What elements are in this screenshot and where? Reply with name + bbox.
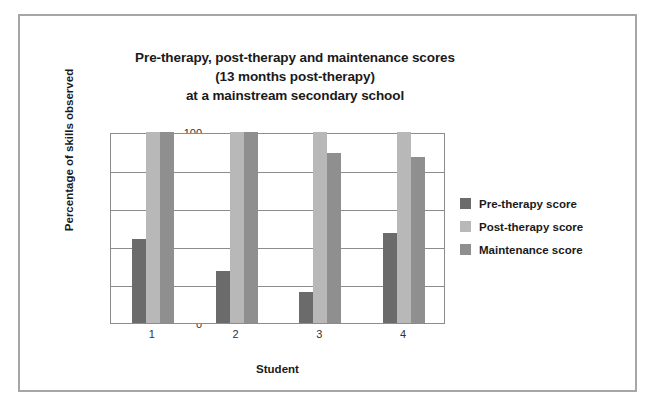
legend-swatch-icon — [460, 221, 471, 232]
bar[interactable] — [146, 132, 160, 323]
bar[interactable] — [411, 157, 425, 323]
bar[interactable] — [216, 271, 230, 323]
legend-swatch-icon — [460, 244, 471, 255]
legend-item[interactable]: Pre-therapy score — [460, 192, 640, 215]
x-tick-label: 2 — [216, 328, 256, 340]
x-axis-label: Student — [110, 363, 445, 375]
x-tick-label: 4 — [383, 328, 423, 340]
legend-label: Maintenance score — [479, 244, 583, 256]
bar[interactable] — [160, 132, 174, 323]
bar[interactable] — [397, 132, 411, 323]
legend-label: Post-therapy score — [479, 221, 583, 233]
y-axis-label: Percentage of skills observed — [63, 35, 75, 265]
chart-figure: Pre-therapy, post-therapy and maintenanc… — [18, 14, 637, 392]
legend-item[interactable]: Post-therapy score — [460, 215, 640, 238]
bar[interactable] — [230, 132, 244, 323]
bar[interactable] — [244, 132, 258, 323]
chart-title-line-2: (13 months post-therapy) — [60, 67, 530, 86]
bar-group — [279, 134, 363, 323]
bar[interactable] — [313, 132, 327, 323]
chart-title: Pre-therapy, post-therapy and maintenanc… — [60, 48, 530, 105]
bar-group — [195, 134, 279, 323]
bar[interactable] — [299, 292, 313, 323]
bar-group — [362, 134, 446, 323]
legend-label: Pre-therapy score — [479, 198, 577, 210]
plot-area — [110, 133, 445, 324]
chart-title-line-1: Pre-therapy, post-therapy and maintenanc… — [60, 48, 530, 67]
x-tick-label: 1 — [132, 328, 172, 340]
bar[interactable] — [383, 233, 397, 323]
chart-title-line-3: at a mainstream secondary school — [60, 86, 530, 105]
bar[interactable] — [132, 239, 146, 323]
legend-item[interactable]: Maintenance score — [460, 238, 640, 261]
x-tick-label: 3 — [299, 328, 339, 340]
legend-swatch-icon — [460, 198, 471, 209]
chart-legend: Pre-therapy scorePost-therapy scoreMaint… — [460, 192, 640, 261]
bar[interactable] — [327, 153, 341, 323]
bar-group — [111, 134, 195, 323]
